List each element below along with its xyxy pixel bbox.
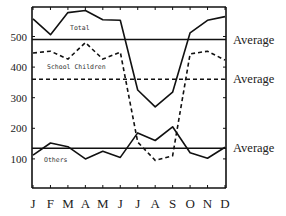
y-axis-labels: 100200300400500 (11, 31, 28, 165)
x-tick-label: M (62, 196, 74, 211)
average-label: Average (233, 72, 275, 86)
x-tick-label: A (150, 196, 160, 211)
x-tick-label: J (118, 196, 123, 211)
y-tick-label: 400 (11, 61, 28, 73)
x-tick-label: J (135, 196, 140, 211)
y-tick-label: 300 (11, 92, 28, 104)
chart: 100200300400500 JFMAMJJASOND AverageAver… (0, 0, 286, 216)
line-chart: 100200300400500 JFMAMJJASOND AverageAver… (0, 0, 286, 216)
y-tick-label: 500 (11, 31, 28, 43)
average-label: Average (233, 141, 275, 155)
series-label-total: Total (70, 24, 90, 32)
x-tick-label: F (47, 196, 54, 211)
x-tick-label: M (97, 196, 109, 211)
y-tick-label: 200 (11, 122, 28, 134)
series-line-total (33, 11, 225, 107)
x-tick-label: J (30, 196, 35, 211)
x-tick-label: D (220, 196, 229, 211)
x-tick-label: A (81, 196, 91, 211)
x-tick-label: S (169, 196, 176, 211)
series-lines (33, 11, 225, 161)
average-labels: AverageAverageAverage (233, 33, 275, 156)
y-tick-label: 100 (11, 153, 28, 165)
series-label-school-children: School Children (47, 63, 106, 71)
series-line-school-children (33, 43, 225, 161)
series-label-others: Others (44, 156, 68, 164)
x-axis-labels: JFMAMJJASOND (30, 196, 229, 211)
series-line-others (33, 127, 225, 159)
x-tick-label: N (203, 196, 213, 211)
x-tick-label: O (185, 196, 194, 211)
average-label: Average (233, 33, 275, 47)
